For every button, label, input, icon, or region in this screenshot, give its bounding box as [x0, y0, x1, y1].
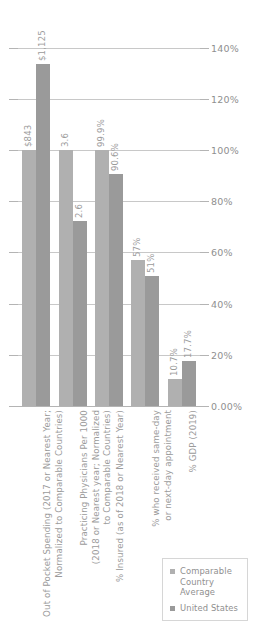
y-tick-mark-right — [200, 252, 209, 253]
bar[interactable] — [22, 150, 36, 406]
bar[interactable] — [182, 361, 196, 406]
bar-group: 57%51% — [131, 35, 159, 406]
bar-value-label: 10.7% — [169, 348, 179, 376]
y-tick-mark — [9, 201, 18, 202]
bar-value-label: 3.6 — [60, 133, 70, 147]
y-tick-mark-right — [200, 304, 209, 305]
y-axis-tick-label: 100% — [211, 145, 239, 156]
y-axis-tick-label: 60% — [211, 247, 233, 258]
legend-item[interactable]: Comparable Country Average — [170, 566, 241, 598]
category-label: % GDP (2019) — [188, 410, 200, 472]
y-tick-mark — [9, 355, 18, 356]
y-tick-mark-right — [200, 48, 209, 49]
category-label: Out of Pocket Spending (2017 or Nearest … — [42, 410, 65, 617]
axis-baseline — [18, 406, 200, 407]
bar[interactable] — [168, 379, 182, 406]
bar-group: 10.7%17.7% — [168, 35, 196, 406]
bar[interactable] — [36, 64, 50, 406]
bar[interactable] — [145, 276, 159, 406]
y-tick-mark — [9, 150, 18, 151]
bar[interactable] — [59, 150, 73, 406]
bar[interactable] — [95, 150, 109, 406]
category-axis-labels: Out of Pocket Spending (2017 or Nearest … — [0, 410, 261, 570]
bar-value-label: $843 — [23, 125, 33, 147]
y-axis-tick-label: 120% — [211, 93, 239, 104]
legend-item[interactable]: United States — [170, 603, 241, 614]
plot-area: $843$1,1253.62.699.9%90.6%57%51%10.7%17.… — [18, 35, 200, 406]
bar-value-label: 51% — [146, 253, 156, 273]
y-axis-tick-label: 20% — [211, 349, 233, 360]
y-tick-mark — [9, 252, 18, 253]
legend-label: United States — [180, 603, 238, 614]
bar-value-label: 90.6% — [110, 143, 120, 171]
chart-legend: Comparable Country AverageUnited States — [162, 558, 248, 621]
bar-value-label: 57% — [132, 238, 142, 258]
bar-value-label: 2.6 — [74, 204, 84, 218]
bar-value-label: $1,125 — [37, 30, 47, 61]
bar-group: 3.62.6 — [59, 35, 87, 406]
bar-value-label: 17.7% — [183, 330, 193, 358]
y-axis-tick-label: 40% — [211, 298, 233, 309]
y-axis-tick-label: 80% — [211, 196, 233, 207]
y-tick-mark-right — [200, 355, 209, 356]
y-tick-mark — [9, 406, 18, 407]
bar-value-label: 99.9% — [96, 119, 106, 147]
y-tick-mark-right — [200, 99, 209, 100]
y-tick-mark — [9, 99, 18, 100]
legend-swatch-icon — [170, 606, 175, 611]
bar[interactable] — [109, 174, 123, 406]
y-tick-mark-right — [200, 406, 209, 407]
y-tick-mark — [9, 304, 18, 305]
bar[interactable] — [131, 260, 145, 406]
y-axis-tick-label: 140% — [211, 42, 239, 53]
bar[interactable] — [73, 221, 87, 406]
y-axis-tick-label: 0.00% — [211, 401, 242, 412]
legend-swatch-icon — [170, 569, 175, 574]
y-tick-mark-right — [200, 201, 209, 202]
bar-chart: $843$1,1253.62.699.9%90.6%57%51%10.7%17.… — [0, 0, 261, 637]
category-label: % who received same-day or next-day appo… — [151, 410, 174, 527]
category-label: Practicing Physicians Per 1000 (2018 or … — [79, 410, 114, 564]
category-label: % Insured (as of 2018 or Nearest Year) — [115, 410, 127, 582]
legend-label: Comparable Country Average — [180, 566, 241, 598]
bar-group: 99.9%90.6% — [95, 35, 123, 406]
y-tick-mark — [9, 48, 18, 49]
y-tick-mark-right — [200, 150, 209, 151]
bar-group: $843$1,125 — [22, 35, 50, 406]
